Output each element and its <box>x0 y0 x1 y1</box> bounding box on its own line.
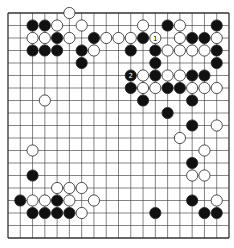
black-stone[interactable] <box>15 195 26 206</box>
white-stone[interactable] <box>27 145 38 156</box>
black-stone[interactable] <box>76 45 87 56</box>
black-stone[interactable] <box>187 157 198 168</box>
white-stone[interactable] <box>211 32 222 43</box>
white-stone[interactable] <box>174 20 185 31</box>
black-stone[interactable] <box>162 82 173 93</box>
black-stone[interactable] <box>52 207 63 218</box>
white-stone[interactable] <box>199 45 210 56</box>
white-stone[interactable] <box>211 82 222 93</box>
white-stone[interactable] <box>162 70 173 81</box>
move-number-label: 1 <box>153 35 157 43</box>
white-stone[interactable] <box>150 82 161 93</box>
white-stone[interactable] <box>174 32 185 43</box>
black-stone[interactable] <box>76 57 87 68</box>
white-stone[interactable] <box>64 7 75 18</box>
white-stone[interactable] <box>187 45 198 56</box>
black-stone[interactable] <box>125 82 136 93</box>
white-stone[interactable] <box>187 82 198 93</box>
black-stone[interactable] <box>39 45 50 56</box>
white-stone[interactable] <box>88 195 99 206</box>
black-stone[interactable] <box>174 82 185 93</box>
white-stone[interactable] <box>52 20 63 31</box>
white-stone[interactable] <box>27 32 38 43</box>
white-stone[interactable] <box>101 32 112 43</box>
black-stone[interactable] <box>125 45 136 56</box>
black-stone[interactable] <box>39 207 50 218</box>
black-stone[interactable] <box>187 70 198 81</box>
white-stone[interactable] <box>76 182 87 193</box>
white-stone[interactable] <box>39 195 50 206</box>
black-stone[interactable] <box>137 95 148 106</box>
white-stone[interactable] <box>187 170 198 181</box>
white-stone[interactable] <box>64 182 75 193</box>
black-stone[interactable] <box>137 32 148 43</box>
black-stone[interactable] <box>52 32 63 43</box>
white-stone[interactable] <box>113 32 124 43</box>
black-stone[interactable] <box>150 57 161 68</box>
black-stone[interactable] <box>211 57 222 68</box>
white-stone[interactable] <box>137 82 148 93</box>
go-board[interactable]: 12 <box>0 0 234 248</box>
white-stone[interactable] <box>137 20 148 31</box>
black-stone[interactable] <box>199 207 210 218</box>
black-stone[interactable] <box>162 107 173 118</box>
white-stone[interactable] <box>174 70 185 81</box>
white-stone[interactable] <box>39 95 50 106</box>
white-stone[interactable] <box>211 195 222 206</box>
white-stone[interactable] <box>125 32 136 43</box>
black-stone[interactable] <box>199 32 210 43</box>
white-stone[interactable] <box>211 120 222 131</box>
black-stone[interactable] <box>187 195 198 206</box>
black-stone[interactable] <box>199 70 210 81</box>
white-stone[interactable] <box>174 45 185 56</box>
white-stone[interactable] <box>64 195 75 206</box>
black-stone[interactable] <box>187 120 198 131</box>
black-stone[interactable] <box>27 207 38 218</box>
black-stone[interactable] <box>88 32 99 43</box>
black-stone[interactable] <box>27 20 38 31</box>
move-number-label: 2 <box>129 72 133 80</box>
white-stone[interactable] <box>88 45 99 56</box>
black-stone[interactable] <box>211 20 222 31</box>
black-stone[interactable] <box>211 207 222 218</box>
white-stone[interactable] <box>162 45 173 56</box>
black-stone[interactable] <box>52 45 63 56</box>
black-stone[interactable] <box>27 170 38 181</box>
white-stone[interactable] <box>137 70 148 81</box>
white-stone[interactable] <box>52 182 63 193</box>
black-stone[interactable] <box>150 70 161 81</box>
black-stone[interactable] <box>150 207 161 218</box>
white-stone[interactable] <box>27 195 38 206</box>
black-stone[interactable] <box>52 195 63 206</box>
black-stone[interactable] <box>187 32 198 43</box>
white-stone[interactable] <box>76 207 87 218</box>
black-stone[interactable] <box>27 45 38 56</box>
white-stone[interactable] <box>174 132 185 143</box>
white-stone[interactable] <box>64 32 75 43</box>
white-stone[interactable] <box>39 32 50 43</box>
black-stone[interactable] <box>187 95 198 106</box>
white-stone[interactable] <box>76 20 87 31</box>
black-stone[interactable] <box>162 20 173 31</box>
black-stone[interactable] <box>39 20 50 31</box>
black-stone[interactable] <box>211 45 222 56</box>
white-stone[interactable] <box>199 170 210 181</box>
white-stone[interactable] <box>199 145 210 156</box>
black-stone[interactable] <box>64 207 75 218</box>
black-stone[interactable] <box>150 45 161 56</box>
white-stone[interactable] <box>199 82 210 93</box>
